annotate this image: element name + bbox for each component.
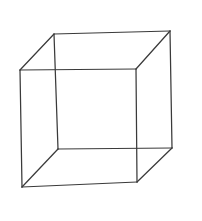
necker-cube-drawing <box>0 0 202 221</box>
figure-canvas <box>0 0 202 221</box>
